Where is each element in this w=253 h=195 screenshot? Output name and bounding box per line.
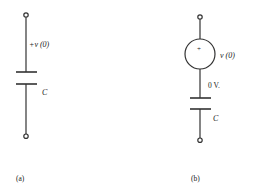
- terminal-top-a: [24, 13, 28, 17]
- circuit-a: [16, 13, 37, 139]
- voltage-label-a: +v (0): [29, 40, 50, 49]
- caption-a: (a): [16, 174, 25, 183]
- terminal-top-b: [198, 15, 202, 19]
- source-voltage-label: v (0): [220, 51, 235, 60]
- terminal-bottom-a: [24, 134, 28, 138]
- capacitor-label-b: C: [213, 114, 219, 123]
- circuit-diagram: +v (0) C (a) + v (0) 0 V. C (b): [0, 0, 253, 195]
- circuit-b: [185, 15, 215, 143]
- capacitor-label-a: C: [42, 88, 48, 97]
- terminal-bottom-b: [198, 138, 202, 142]
- voltage-source: [185, 39, 215, 69]
- source-polarity-plus: +: [197, 45, 201, 53]
- node-voltage-label: 0 V.: [208, 81, 220, 90]
- caption-b: (b): [191, 174, 200, 183]
